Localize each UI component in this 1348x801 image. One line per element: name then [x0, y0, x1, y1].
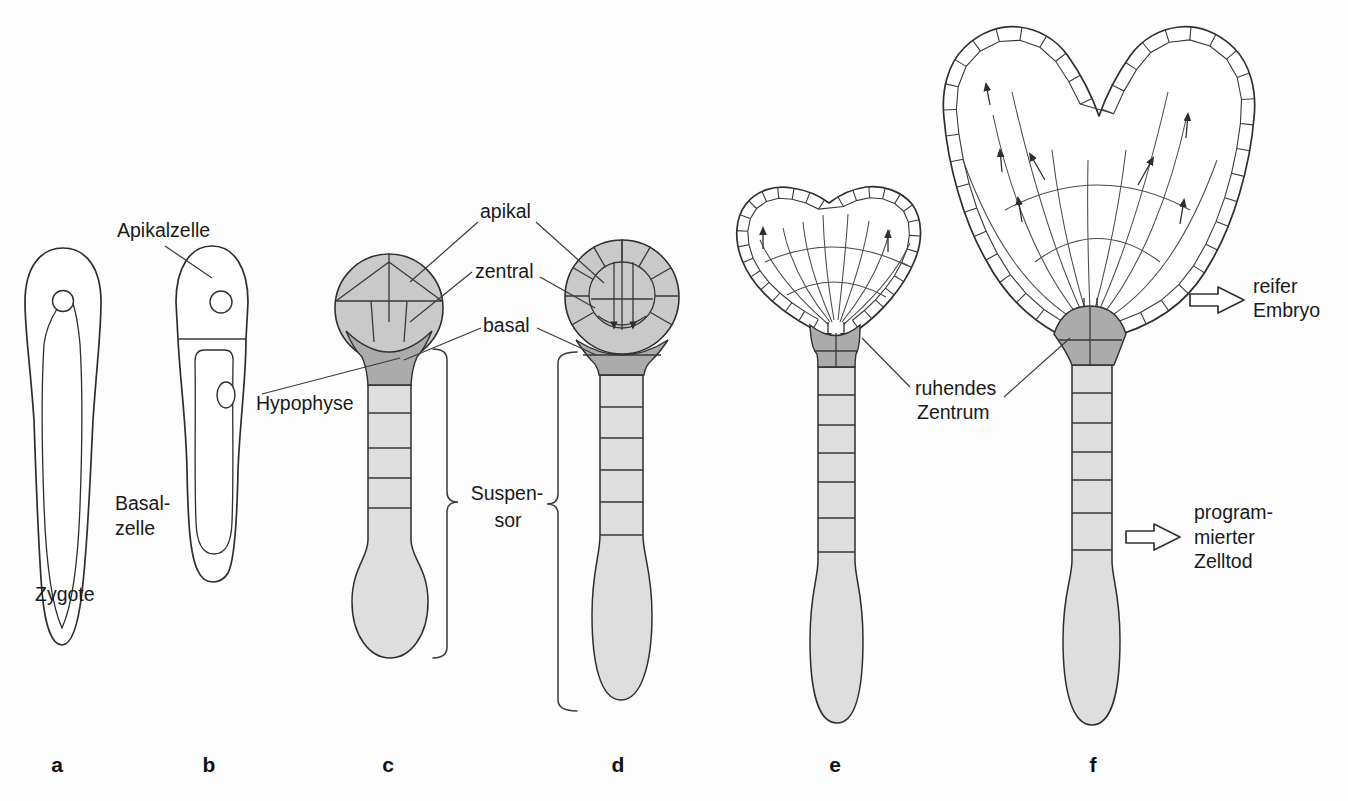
ruhendes-zentrum-leader-f: [1004, 338, 1070, 397]
panel-letter-b: b: [203, 753, 216, 776]
suspensor-label-line2: sor: [494, 509, 522, 531]
ruhendes-zentrum-label-line1: ruhendes: [915, 377, 997, 399]
zelltod-label-line3: Zelltod: [1194, 550, 1253, 572]
basal-cell-nucleus: [217, 382, 235, 408]
panel-letter-e: e: [829, 753, 841, 776]
ruhendes-zentrum-leader-e: [862, 338, 910, 387]
embryo-outline-f: [943, 27, 1254, 334]
suspensor-brace-c: [433, 349, 458, 658]
panel-d-late-globular-stage: [547, 239, 679, 711]
apical-cell-nucleus: [210, 291, 232, 313]
panel-b-two-cell-stage: [176, 246, 248, 582]
panel-f-late-heart-stage: [943, 27, 1254, 725]
apikalzelle-label: Apikalzelle: [117, 219, 210, 241]
panel-letter-c: c: [382, 753, 394, 776]
hypophyse-label: Hypophyse: [256, 392, 354, 414]
suspensor-e: [810, 367, 863, 723]
panel-letter-d: d: [612, 753, 625, 776]
reifer-embryo-arrow: [1190, 287, 1244, 313]
quiescent-center-e: [810, 325, 860, 367]
reifer-embryo-label-line1: reifer: [1253, 275, 1298, 297]
panel-letter-a: a: [51, 753, 63, 776]
reifer-embryo-label-line2: Embryo: [1253, 299, 1320, 321]
diagram-svg: Apikalzelle Basal- zelle Zygote Hypophys…: [0, 0, 1348, 801]
basal-label: basal: [483, 314, 530, 336]
panel-letters: a b c d e f: [51, 753, 1097, 776]
basalzelle-label-line2: zelle: [115, 517, 155, 539]
basalzelle-label-line1: Basal-: [115, 492, 170, 514]
zelltod-label-line1: program-: [1194, 501, 1273, 523]
panel-c-globular-stage: [335, 254, 458, 658]
zelltod-arrow: [1126, 524, 1180, 550]
panel-letter-f: f: [1090, 753, 1098, 776]
ruhendes-zentrum-label-line2: Zentrum: [917, 401, 990, 423]
suspensor-f: [1063, 365, 1120, 725]
zelltod-label-line2: mierter: [1194, 526, 1255, 548]
suspensor-c: [352, 385, 428, 658]
suspensor-brace-d: [547, 352, 577, 711]
zygote-label: Zygote: [35, 583, 95, 605]
zentral-label: zentral: [475, 260, 534, 282]
apikal-leader-c: [410, 222, 478, 282]
zygote-nucleus: [53, 291, 74, 312]
panel-e-heart-stage: [737, 187, 921, 723]
suspensor-d: [592, 375, 652, 700]
suspensor-label-line1: Suspen-: [471, 482, 544, 504]
apikal-label: apikal: [480, 200, 531, 222]
embryogenesis-figure: Apikalzelle Basal- zelle Zygote Hypophys…: [0, 0, 1348, 801]
